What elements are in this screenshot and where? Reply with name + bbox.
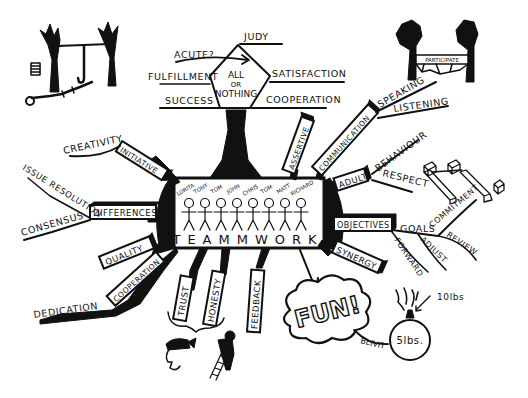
- rope-swing-trees-illustration: [26, 22, 118, 105]
- bomb-illustration: 5lbs. 10lbs: [390, 288, 464, 360]
- ladder-climber-illustration: [210, 331, 235, 380]
- svg-text:CREATIVITY: CREATIVITY: [62, 133, 123, 156]
- svg-text:OR: OR: [231, 81, 242, 89]
- svg-text:10lbs: 10lbs: [437, 292, 464, 302]
- svg-text:COMMUNICATION: COMMUNICATION: [317, 114, 372, 174]
- teamwork-mind-map: PARTICIPATE ALL OR NOTHING JUDY ACUTE? F…: [0, 0, 528, 398]
- svg-text:NOTHING: NOTHING: [215, 89, 257, 99]
- svg-text:COMMITMENT: COMMITMENT: [428, 183, 481, 230]
- svg-text:BEHAVIOUR: BEHAVIOUR: [373, 129, 429, 174]
- all-or-nothing-diamond: ALL OR NOTHING JUDY ACUTE? FULFILLMENT S…: [148, 31, 347, 108]
- svg-text:COOPERATION: COOPERATION: [266, 94, 341, 105]
- hammock-trees-illustration: PARTICIPATE: [396, 20, 478, 82]
- svg-text:BLIVIT: BLIVIT: [360, 336, 387, 351]
- svg-text:SATISFACTION: SATISFACTION: [272, 68, 347, 79]
- svg-text:JUDY: JUDY: [243, 31, 269, 42]
- svg-text:FULFILLMENT: FULFILLMENT: [148, 71, 218, 82]
- svg-text:5lbs.: 5lbs.: [397, 335, 424, 346]
- central-topic-label: TEAMMWORK: [171, 232, 323, 247]
- svg-text:SUCCESS: SUCCESS: [165, 95, 214, 106]
- svg-text:OBJECTIVES: OBJECTIVES: [337, 221, 390, 230]
- svg-text:REVIEW: REVIEW: [445, 230, 479, 257]
- svg-text:PARTICIPATE: PARTICIPATE: [425, 57, 459, 63]
- bottom-branches: TRUST HONESTY FEEDBACK: [166, 248, 270, 380]
- svg-text:ISSUE RESOLUTION: ISSUE RESOLUTION: [21, 162, 104, 219]
- svg-text:ALL: ALL: [228, 70, 244, 80]
- left-branches: INITIATIVE CREATIVITY DIFFERENCES ISSUE …: [20, 133, 180, 324]
- svg-text:ADJUST: ADJUST: [419, 235, 449, 265]
- central-teamwork-box: LORITA TONY TOM JOHN CHRIS TOM MATT RICH…: [157, 178, 344, 250]
- blindfolded-head-illustration: [166, 338, 196, 370]
- trunk-connector: [210, 110, 262, 178]
